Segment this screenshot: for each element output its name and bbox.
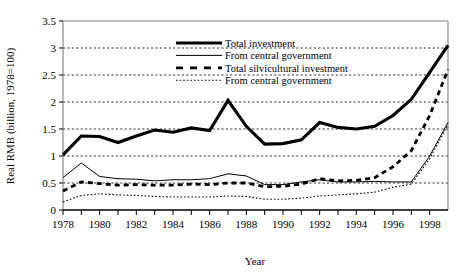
x-tick-label: 1996 — [382, 218, 405, 230]
chart-container: 00.511.522.533.5 19781980198219841986198… — [0, 0, 468, 273]
legend-label-3: From central government — [225, 75, 332, 86]
x-tick-label: 1978 — [52, 218, 75, 230]
y-axis-ticks — [59, 21, 63, 210]
x-axis-tick-labels: 1978198019821984198619881990199219941996… — [52, 218, 441, 230]
y-tick-label: 3.5 — [42, 15, 56, 27]
y-tick-label: 0 — [51, 204, 57, 216]
x-tick-label: 1998 — [419, 218, 442, 230]
x-tick-label: 1992 — [309, 218, 331, 230]
x-axis-title: Year — [245, 255, 266, 267]
y-axis-tick-labels: 00.511.522.533.5 — [42, 15, 56, 216]
y-tick-label: 0.5 — [42, 177, 56, 189]
x-tick-label: 1982 — [125, 218, 147, 230]
y-tick-label: 2.5 — [42, 69, 56, 81]
y-tick-label: 1 — [51, 150, 57, 162]
y-axis-title: Real RMB (billion, 1978=100) — [4, 47, 17, 184]
legend-label-2: Total silvicultural investment — [225, 63, 348, 74]
legend-label-1: From central government — [225, 50, 332, 61]
x-tick-label: 1988 — [235, 218, 258, 230]
x-tick-label: 1980 — [89, 218, 112, 230]
x-tick-label: 1986 — [199, 218, 222, 230]
legend-label-0: Total investment — [225, 38, 295, 49]
y-tick-label: 1.5 — [42, 123, 56, 135]
investment-line-chart: 00.511.522.533.5 19781980198219841986198… — [0, 0, 468, 273]
x-tick-label: 1994 — [345, 218, 368, 230]
y-tick-label: 2 — [51, 96, 57, 108]
x-axis-ticks — [63, 210, 430, 215]
x-tick-label: 1984 — [162, 218, 185, 230]
x-tick-label: 1990 — [272, 218, 295, 230]
y-tick-label: 3 — [51, 42, 57, 54]
